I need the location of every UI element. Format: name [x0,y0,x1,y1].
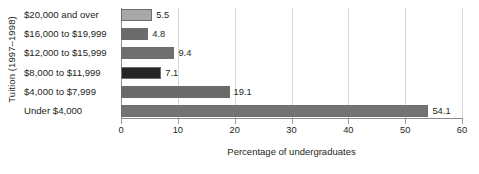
bar-chart: Tuition (1997–1998) $20,000 and over$16,… [0,0,479,174]
bar [121,67,161,79]
bar-row: 54.1 [121,104,462,118]
bar-value-label: 54.1 [432,105,450,117]
category-label: Under $4,000 [24,104,119,118]
bar-row: 7.1 [121,66,462,80]
bar-value-label: 7.1 [165,67,178,79]
x-axis-tick-labels: 0102030405060 [121,124,462,138]
gridline [462,8,463,118]
bar-value-label: 5.5 [156,9,169,21]
y-axis-title-text: Tuition (1997–1998) [6,16,17,103]
bar-value-label: 4.8 [152,28,165,40]
bar-value-label: 9.4 [178,47,191,59]
category-label: $20,000 and over [24,8,119,22]
bar-value-label: 19.1 [234,86,252,98]
bar [121,9,152,21]
bar [121,86,230,98]
bar-row: 4.8 [121,27,462,41]
bar-series: 5.54.89.47.119.154.1 [121,8,462,118]
category-label: $8,000 to $11,999 [24,66,119,80]
bar-row: 19.1 [121,85,462,99]
category-label: $4,000 to $7,999 [24,85,119,99]
bar [121,28,148,40]
bar-row: 9.4 [121,46,462,60]
y-axis-title: Tuition (1997–1998) [0,0,22,118]
x-axis-title: Percentage of undergraduates [121,146,462,157]
category-label: $12,000 to $15,999 [24,46,119,60]
bar-row: 5.5 [121,8,462,22]
bar [121,105,428,117]
x-axis-tick-label: 60 [457,124,467,136]
x-axis-tick-label: 40 [343,124,353,136]
x-axis-tick-label: 50 [400,124,410,136]
x-axis-tick-label: 10 [173,124,183,136]
x-axis-tick-label: 30 [286,124,296,136]
category-axis-labels: $20,000 and over$16,000 to $19,999$12,00… [24,8,119,118]
plot-area: 5.54.89.47.119.154.1 [121,8,462,118]
bar [121,47,174,59]
x-axis-tick-label: 0 [118,124,123,136]
category-label: $16,000 to $19,999 [24,27,119,41]
x-axis-tick-label: 20 [229,124,239,136]
